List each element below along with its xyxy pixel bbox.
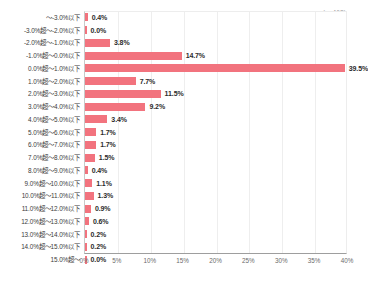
bar-value-label: 3.8% (114, 39, 130, 46)
bar-row: ～-3.0%以下0.4% (0, 11, 356, 24)
bar-row-label: 12.0%超～13.0%以下 (0, 217, 80, 226)
bar-row-label: 7.0%超～8.0%以下 (0, 153, 80, 162)
x-axis-tick-label: 5% (112, 257, 121, 264)
bar-row: 2.0%超～3.0%以下11.5% (0, 88, 356, 101)
bar (85, 26, 87, 34)
bar-value-label: 11.5% (165, 90, 184, 97)
x-axis-tick-label: 15% (176, 257, 189, 264)
bar (85, 230, 87, 238)
bar-container: 0.0% (85, 24, 347, 37)
bar-row: -2.0%超～-1.0%以下3.8% (0, 37, 356, 50)
bar (85, 52, 182, 60)
bar-value-label: 1.7% (100, 129, 116, 136)
bar (85, 64, 345, 72)
x-axis-tick-label: 35% (308, 257, 321, 264)
x-axis-tick-label: 40% (341, 257, 354, 264)
bar-row-label: 13.0%超～14.0%以下 (0, 230, 80, 239)
bar (85, 115, 107, 123)
bar-value-label: 0.4% (92, 14, 108, 21)
x-axis-tick-label: 30% (275, 257, 288, 264)
bar-row: 14.0%超～15.0%以下0.2% (0, 241, 356, 254)
bar-row-label: ～-3.0%以下 (0, 13, 80, 22)
bar-container: 14.7% (85, 49, 347, 62)
bar (85, 179, 92, 187)
bar-value-label: 0.2% (91, 243, 107, 250)
bar-row: 9.0%超～10.0%以下1.1% (0, 177, 356, 190)
bar (85, 166, 88, 174)
bar-value-label: 0.9% (95, 205, 111, 212)
bar-row-label: 0.0%超～1.0%以下 (0, 64, 80, 73)
bar-container: 1.5% (85, 151, 347, 164)
bar (85, 13, 88, 21)
x-axis-tick-label: 0% (79, 257, 88, 264)
bar-container: 9.2% (85, 100, 347, 113)
bar-value-label: 3.4% (111, 116, 127, 123)
bar-value-label: 7.7% (140, 78, 156, 85)
bar-row: 5.0%超～6.0%以下1.7% (0, 126, 356, 139)
bar (85, 128, 96, 136)
bar-row: 11.0%超～12.0%以下0.9% (0, 202, 356, 215)
bar-value-label: 39.5% (349, 65, 368, 72)
bar-container: 3.4% (85, 113, 347, 126)
x-axis-tick-label: 25% (242, 257, 255, 264)
bar-container: 39.5% (85, 62, 347, 75)
bar-value-label: 0.0% (91, 27, 107, 34)
bar-row-label: 3.0%超～4.0%以下 (0, 102, 80, 111)
bar-container: 3.8% (85, 37, 347, 50)
bar-row-label: 6.0%超～7.0%以下 (0, 140, 80, 149)
x-axis-tick-label: 10% (143, 257, 156, 264)
bar-value-label: 14.7% (186, 52, 205, 59)
bar-row-label: 2.0%超～3.0%以下 (0, 89, 80, 98)
bar-row-label: 1.0%超～2.0%以下 (0, 77, 80, 86)
bar-row-label: 15.0%超～ (0, 255, 80, 264)
bar-row-label: -1.0%超～0.0%以下 (0, 51, 80, 60)
bar-row: 6.0%超～7.0%以下1.7% (0, 139, 356, 152)
bar-row: 7.0%超～8.0%以下1.5% (0, 151, 356, 164)
bar-container: 0.2% (85, 228, 347, 241)
bar-row: 10.0%超～11.0%以下1.3% (0, 190, 356, 203)
bar-container: 0.2% (85, 241, 347, 254)
bar-row-label: 11.0%超～12.0%以下 (0, 204, 80, 213)
bar-container: 11.5% (85, 88, 347, 101)
bar-value-label: 0.4% (92, 167, 108, 174)
bar-row-label: 8.0%超～9.0%以下 (0, 166, 80, 175)
bar-container: 7.7% (85, 75, 347, 88)
bar-row: 8.0%超～9.0%以下0.4% (0, 164, 356, 177)
bar-value-label: 9.2% (149, 103, 165, 110)
bar-value-label: 0.2% (91, 231, 107, 238)
bar-value-label: 0.6% (93, 218, 109, 225)
bar (85, 192, 94, 200)
bar-row: -3.0%超～-2.0%以下0.0% (0, 24, 356, 37)
bar-row: 0.0%超～1.0%以下39.5% (0, 62, 356, 75)
bar-value-label: 1.7% (100, 141, 116, 148)
bar (85, 39, 110, 47)
bar-row-label: -3.0%超～-2.0%以下 (0, 26, 80, 35)
x-axis: 0%5%10%15%20%25%30%35%40% (84, 255, 347, 269)
bar (85, 217, 89, 225)
bar-rows: ～-3.0%以下0.4%-3.0%超～-2.0%以下0.0%-2.0%超～-1.… (0, 11, 356, 254)
bar (85, 90, 161, 98)
bar (85, 103, 145, 111)
bar-row-label: 4.0%超～5.0%以下 (0, 115, 80, 124)
bar (85, 141, 96, 149)
bar-container: 1.7% (85, 139, 347, 152)
bar-container: 0.4% (85, 164, 347, 177)
bar-value-label: 1.1% (96, 180, 112, 187)
bar-container: 0.6% (85, 215, 347, 228)
bar (85, 77, 136, 85)
bar-row-label: 9.0%超～10.0%以下 (0, 179, 80, 188)
bar (85, 205, 91, 213)
bar-row: 12.0%超～13.0%以下0.6% (0, 215, 356, 228)
bar-row: -1.0%超～0.0%以下14.7% (0, 49, 356, 62)
bar-container: 0.9% (85, 202, 347, 215)
bar-row-label: 5.0%超～6.0%以下 (0, 128, 80, 137)
bar-container: 1.1% (85, 177, 347, 190)
bar-row-label: -2.0%超～-1.0%以下 (0, 38, 80, 47)
bar-container: 1.7% (85, 126, 347, 139)
bar-row-label: 14.0%超～15.0%以下 (0, 242, 80, 251)
bar-row: 3.0%超～4.0%以下9.2% (0, 100, 356, 113)
bar-container: 0.4% (85, 11, 347, 24)
bar (85, 154, 95, 162)
bar-value-label: 1.3% (98, 192, 114, 199)
